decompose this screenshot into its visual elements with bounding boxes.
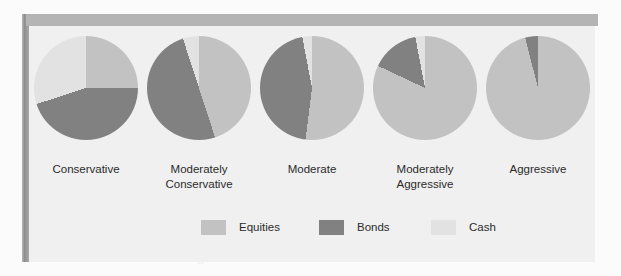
legend-swatch-bonds bbox=[319, 220, 344, 235]
pie-graphic bbox=[260, 36, 364, 140]
pie-graphic bbox=[147, 36, 251, 140]
pie-label-line1: Moderately bbox=[397, 163, 454, 175]
legend-label: Bonds bbox=[357, 221, 390, 233]
pie-label-line1: Moderate bbox=[288, 163, 337, 175]
legend-item-equities: Equities bbox=[201, 216, 280, 238]
pie-chart-aggressive bbox=[482, 34, 594, 160]
pie-chart-moderately-aggressive bbox=[369, 34, 481, 160]
legend-swatch-equities bbox=[201, 220, 226, 235]
pie-label-line1: Moderately bbox=[171, 163, 228, 175]
legend-swatch-cash bbox=[431, 220, 456, 235]
pie-graphic bbox=[373, 36, 477, 140]
pie-chart-moderate bbox=[256, 34, 368, 160]
pie-graphic bbox=[34, 36, 138, 140]
pie-chart-row bbox=[29, 34, 595, 160]
legend-item-bonds: Bonds bbox=[319, 216, 390, 238]
pie-label-line1: Aggressive bbox=[510, 163, 567, 175]
page-gutter-bar bbox=[22, 14, 29, 262]
legend-label: Cash bbox=[469, 221, 496, 233]
asset-allocation-figure: ConservativeModeratelyConservativeModera… bbox=[29, 26, 595, 262]
pie-chart-moderately-conservative bbox=[143, 34, 255, 160]
pie-chart-conservative bbox=[30, 34, 142, 160]
figure-top-band bbox=[26, 14, 598, 26]
legend-item-cash: Cash bbox=[431, 216, 496, 238]
pie-label-row: ConservativeModeratelyConservativeModera… bbox=[29, 162, 595, 208]
pie-label-line2: Aggressive bbox=[359, 177, 491, 192]
chart-legend: EquitiesBondsCash bbox=[29, 216, 595, 242]
legend-label: Equities bbox=[239, 221, 280, 233]
pie-label-line2: Conservative bbox=[133, 177, 265, 192]
pie-label: Aggressive bbox=[472, 162, 604, 177]
pie-graphic bbox=[486, 36, 590, 140]
pie-label-line1: Conservative bbox=[52, 163, 119, 175]
